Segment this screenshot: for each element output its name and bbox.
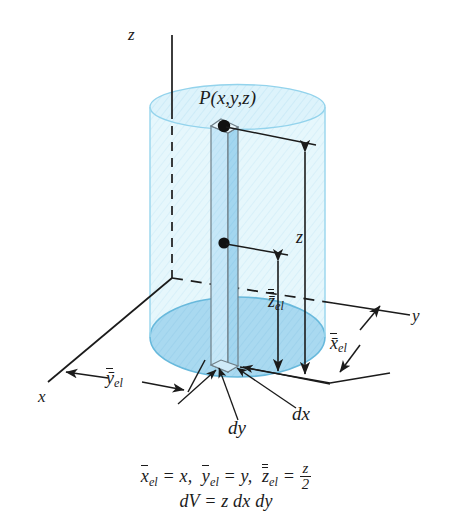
y-el-arrow-left: [66, 372, 108, 378]
eq-y-sub: el: [210, 475, 219, 489]
equation-line-2: dV = z dx dy: [0, 491, 452, 512]
x-el-subscript: el: [338, 341, 347, 355]
z-el-symbol: z̄: [268, 291, 275, 311]
z-axis-label: z: [128, 26, 135, 43]
y-axis-label: y: [412, 307, 420, 324]
x-el-symbol: x̄: [330, 333, 338, 353]
dimension-y-el-label: ȳel: [106, 369, 123, 390]
eq-x-sub: el: [149, 475, 158, 489]
eq-z-equals: =: [283, 466, 295, 486]
dimension-z-el-label: z̄el: [268, 292, 284, 313]
centroid-cylinder-diagram: [0, 0, 452, 523]
point-P-marker: [218, 120, 230, 132]
dx-label: dx: [292, 404, 310, 423]
equation-line-1: xel = x, yel = y, zel = z 2: [0, 461, 452, 492]
centroid-marker: [218, 237, 229, 248]
z-el-subscript: el: [275, 299, 284, 313]
eq-y-value: = y,: [224, 466, 253, 486]
y-axis-solid: [333, 303, 410, 315]
eq-z-bar: z: [262, 466, 269, 486]
x-axis-label: x: [38, 388, 46, 405]
eq-z-fraction: z 2: [300, 461, 312, 492]
prism-left-face: [211, 126, 228, 372]
eq-y-bar: y: [202, 466, 210, 486]
eq-z-numerator: z: [300, 461, 312, 477]
y-el-arrow-right: [142, 382, 184, 390]
dimension-z-label: z: [296, 228, 303, 246]
y-el-subscript: el: [114, 376, 123, 390]
point-P-label: P(x,y,z): [199, 88, 256, 107]
prism-right-face: [228, 127, 238, 372]
eq-x-value: = x,: [162, 466, 192, 486]
y-el-symbol: ȳ: [106, 368, 114, 388]
dy-label: dy: [228, 418, 246, 437]
eq-z-sub: el: [269, 475, 278, 489]
x-el-reference-line: [330, 373, 390, 383]
eq-z-denominator: 2: [300, 477, 312, 492]
eq-x-bar: x: [141, 466, 149, 486]
dimension-x-el-label: x̄el: [330, 334, 347, 355]
